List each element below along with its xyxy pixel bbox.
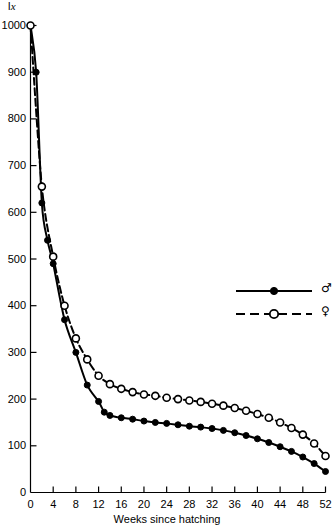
survivorship-chart (0, 0, 334, 532)
legend-label-female: ♀ (321, 305, 330, 317)
y-tick-label: 200 (0, 394, 26, 405)
y-tick-label: 1000 (0, 20, 26, 31)
x-tick-label: 40 (247, 499, 267, 510)
data-point-male (164, 420, 170, 426)
x-tick-label: 16 (111, 499, 131, 510)
data-point-male (186, 423, 192, 429)
data-point-male (152, 419, 158, 425)
y-axis-title-text: lx (8, 0, 16, 12)
x-tick-label: 20 (134, 499, 154, 510)
data-point-male (254, 436, 260, 442)
x-tick-label: 8 (66, 499, 86, 510)
data-point-female (254, 411, 261, 418)
data-point-male (209, 426, 215, 432)
data-point-male (130, 416, 136, 422)
data-point-male (277, 444, 283, 450)
x-tick-label: 32 (202, 499, 222, 510)
legend-marker-male (270, 287, 277, 294)
data-point-male (232, 430, 238, 436)
data-point-male (311, 461, 317, 467)
x-tick-label: 36 (225, 499, 245, 510)
data-point-female (288, 425, 295, 432)
x-tick-label: 48 (293, 499, 313, 510)
data-point-female (27, 22, 34, 29)
y-tick-label: 500 (0, 254, 26, 265)
x-axis-title: Weeks since hatching (0, 513, 334, 525)
data-point-male (198, 424, 204, 430)
data-point-female (106, 381, 113, 388)
data-point-female (265, 414, 272, 421)
data-point-female (140, 391, 147, 398)
y-tick-label: 300 (0, 347, 26, 358)
chart-background (0, 0, 334, 532)
x-tick-label: 0 (21, 499, 41, 510)
x-tick-label: 52 (316, 499, 334, 510)
x-tick-label: 28 (179, 499, 199, 510)
y-tick-label: 600 (0, 207, 26, 218)
data-point-male (107, 412, 113, 418)
x-tick-label: 24 (157, 499, 177, 510)
y-tick-label: 900 (0, 67, 26, 78)
data-point-female (311, 440, 318, 447)
data-point-female (129, 389, 136, 396)
data-point-male (141, 418, 147, 424)
data-point-female (197, 398, 204, 405)
data-point-female (50, 253, 57, 260)
data-point-female (243, 407, 250, 414)
y-tick-label: 400 (0, 300, 26, 311)
y-tick-label: 0 (0, 487, 26, 498)
data-point-male (101, 409, 107, 415)
data-point-male (118, 415, 124, 421)
data-point-male (73, 349, 79, 355)
legend-marker-female (270, 310, 278, 318)
data-point-male (62, 317, 68, 323)
y-axis-title: lx (8, 1, 16, 12)
data-point-male (300, 454, 306, 460)
data-point-male (323, 468, 329, 474)
data-point-male (175, 422, 181, 428)
data-point-male (96, 398, 102, 404)
x-tick-label: 4 (43, 499, 63, 510)
data-point-female (61, 302, 68, 309)
data-point-female (277, 419, 284, 426)
y-tick-label: 700 (0, 160, 26, 171)
data-point-female (231, 404, 238, 411)
data-point-female (209, 400, 216, 407)
data-point-female (322, 453, 329, 460)
data-point-female (186, 397, 193, 404)
data-point-female (175, 396, 182, 403)
data-point-female (220, 402, 227, 409)
data-point-female (95, 372, 102, 379)
data-point-female (299, 431, 306, 438)
data-point-female (38, 183, 45, 190)
data-point-female (152, 392, 159, 399)
x-tick-label: 44 (270, 499, 290, 510)
data-point-male (288, 448, 294, 454)
data-point-female (72, 335, 79, 342)
data-point-female (163, 394, 170, 401)
data-point-male (266, 440, 272, 446)
data-point-female (118, 385, 125, 392)
legend-label-male: ♂ (321, 282, 332, 294)
x-tick-label: 12 (89, 499, 109, 510)
data-point-male (243, 433, 249, 439)
y-tick-label: 800 (0, 113, 26, 124)
data-point-male (220, 427, 226, 433)
data-point-female (84, 356, 91, 363)
y-tick-label: 100 (0, 440, 26, 451)
data-point-male (84, 382, 90, 388)
